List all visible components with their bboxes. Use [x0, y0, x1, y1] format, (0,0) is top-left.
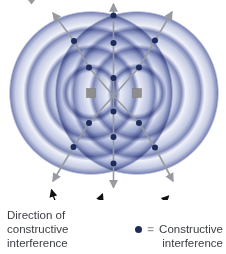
callout-to-center-arrow [74, 194, 103, 200]
constructive-interference-dot [152, 38, 158, 44]
constructive-interference-dot [111, 161, 117, 167]
constructive-interference-dot [111, 134, 117, 140]
callout-to-left-arrow [52, 190, 73, 200]
clipped-arrow-fragment [28, 0, 35, 5]
direction-label-line3: interference [7, 236, 68, 250]
wave-source-left [87, 89, 96, 98]
legend: = Constructive interference [135, 222, 223, 250]
constructive-interference-dot [71, 144, 77, 150]
constructive-interference-dot [111, 40, 117, 46]
constructive-interference-dot [136, 120, 142, 126]
direction-label-line1: Direction of [7, 208, 68, 222]
constructive-interference-dot [86, 120, 92, 126]
constructive-interference-dot [136, 65, 142, 71]
constructive-interference-dot [152, 145, 158, 151]
equals-sign: = [147, 222, 154, 236]
constructive-interference-dot [111, 13, 117, 19]
legend-text-line2: interference [135, 236, 223, 250]
callout-to-right-arrow [78, 196, 169, 200]
constructive-interference-dot [86, 65, 92, 71]
direction-label: Direction of constructive interference [7, 208, 68, 250]
diagram-overlay [0, 0, 226, 200]
constructive-interference-dot [111, 109, 117, 115]
legend-text-line1: Constructive [159, 222, 223, 236]
direction-label-line2: constructive [7, 222, 68, 236]
interference-diagram-screen: Direction of constructive interference =… [0, 0, 226, 254]
constructive-interference-dot [111, 75, 117, 81]
wave-source-right [133, 89, 142, 98]
constructive-dot-icon [135, 226, 142, 233]
constructive-interference-dot [71, 38, 77, 44]
wave-interference-diagram [0, 0, 226, 200]
legend-row: = Constructive [135, 222, 223, 236]
